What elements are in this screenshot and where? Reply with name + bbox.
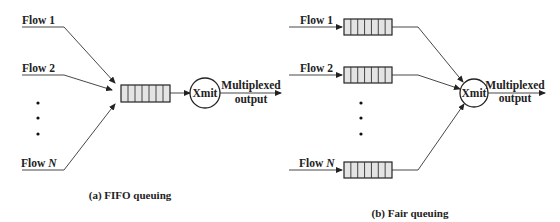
- panel-fair: Flow 1 Flow 2 Flow N Xmit Multiplexed ou…: [289, 14, 545, 220]
- fair-flow-2-label: Flow 2: [300, 62, 333, 74]
- fifo-caption: (a) FIFO queuing: [89, 189, 172, 202]
- panel-fifo: Flow 1 Flow 2 Flow N Xmit Multiplexed ou…: [21, 14, 281, 202]
- fair-xmit-label: Xmit: [462, 87, 487, 99]
- fair-ellipsis-dots: [359, 101, 362, 135]
- fifo-queue: [121, 85, 170, 102]
- fifo-xmit-label: Xmit: [193, 87, 218, 99]
- fifo-flow-2-line: [22, 75, 112, 90]
- fair-flow-n-to-xmit-line: [392, 104, 464, 170]
- fifo-flow-n-label: Flow N: [21, 157, 57, 169]
- fair-flow-n-label: Flow N: [299, 157, 335, 169]
- queuing-diagram: Flow 1 Flow 2 Flow N Xmit Multiplexed ou…: [0, 0, 560, 222]
- fair-queue-flow-n: [344, 162, 392, 178]
- fair-queue-flow-2: [344, 67, 392, 83]
- fair-caption: (b) Fair queuing: [372, 207, 449, 220]
- fifo-flow-1-label: Flow 1: [22, 14, 55, 26]
- fifo-output-label-line2: output: [235, 93, 268, 106]
- fifo-flow-2-label: Flow 2: [22, 62, 55, 74]
- fifo-ellipsis-dots: [36, 101, 39, 135]
- fair-flow-1-label: Flow 1: [300, 14, 333, 26]
- fifo-output-label-line1: Multiplexed: [221, 79, 281, 92]
- fair-output-label-line1: Multiplexed: [485, 79, 545, 92]
- fair-output-label-line2: output: [499, 92, 532, 105]
- fair-flow-2-to-xmit-line: [392, 75, 460, 89]
- fair-queue-flow-1: [344, 19, 392, 35]
- fair-flow-1-to-xmit-line: [392, 27, 463, 82]
